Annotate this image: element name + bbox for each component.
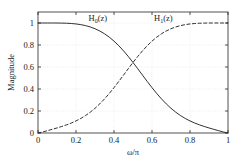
annotation-suffix: (z) [98,13,108,23]
y-tick-label: 0.6 [23,62,34,72]
x-tick-label: 0.6 [147,135,158,145]
y-tick-label: 0.2 [23,106,34,116]
svg-text:H1(z): H1(z) [154,13,173,24]
h0-curve-label: H0(z) [89,13,108,24]
h1-curve-label: H1(z) [154,13,173,24]
figure-canvas: 00.20.40.60.8100.20.40.60.81 ω/πMagnitud… [0,0,244,162]
svg-text:H0(z): H0(z) [89,13,108,24]
y-tick-label: 1 [30,18,34,28]
axis-tick-labels: 00.20.40.60.8100.20.40.60.81 [23,18,230,145]
grid-lines [38,12,228,133]
x-tick-label: 0.4 [109,135,120,145]
axes-frame [38,12,228,133]
x-axis-title: ω/π [127,147,140,157]
x-tick-label: 1 [226,135,230,145]
y-tick-label: 0.8 [23,40,34,50]
y-tick-label: 0 [30,128,34,138]
annotation-suffix: (z) [163,13,173,23]
plot-box-border [38,12,228,133]
y-axis-title: Magnitude [6,54,16,91]
curve-h0z [38,23,228,133]
axis-ticks [38,12,228,133]
data-curves [38,23,228,133]
magnitude-response-chart: 00.20.40.60.8100.20.40.60.81 ω/πMagnitud… [0,0,244,162]
x-tick-label: 0.2 [71,135,82,145]
y-tick-label: 0.4 [23,84,34,94]
curve-annotations: H0(z)H1(z) [89,13,173,24]
curve-h1z [38,23,228,133]
x-tick-label: 0.8 [185,135,196,145]
x-tick-label: 0 [36,135,40,145]
